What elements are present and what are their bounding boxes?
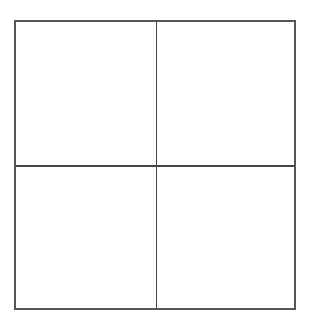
grid-cell-bottom-left [16, 167, 157, 308]
two-by-two-grid [14, 20, 296, 310]
grid-cell-bottom-right [157, 167, 294, 308]
grid-cell-top-left [16, 22, 157, 167]
grid-cell-top-right [157, 22, 294, 167]
